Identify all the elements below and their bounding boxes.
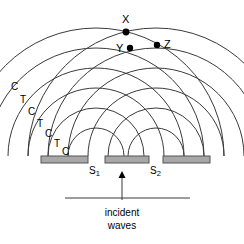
wavefront-arc-s2-1 [128,128,184,156]
wavefront-arc-s2-2 [108,108,204,156]
barrier-left [41,156,88,163]
point-dot-z [154,42,160,48]
wavefront-arc-s2-5 [48,48,244,156]
point-dot-x [123,29,130,36]
slit-label-s2-text: S [150,165,157,176]
slit-label-s2: S2 [150,166,161,176]
point-label-y: Y [116,43,123,54]
slit-label-s1: S1 [89,166,100,176]
incident-wave-arrow-group [65,171,190,200]
wave-label-crest-4: C [62,147,69,157]
slit-label-s1-text: S [89,165,96,176]
wave-label-crest-2: C [28,107,35,117]
incident-waves-line2: waves [92,220,152,233]
wave-label-crest-3: C [45,129,52,139]
incident-arrow-head [119,171,126,178]
point-label-z: Z [164,39,171,50]
point-label-x: X [122,14,129,25]
point-dot-y [127,45,133,51]
barrier-right [163,156,210,163]
slit-label-s2-subscript: 2 [157,169,161,178]
barrier-blocks-group [41,156,210,163]
wave-label-trough-2: T [37,119,43,129]
wave-label-trough-1: T [20,95,26,105]
wave-label-crest-1: C [11,82,18,92]
slit-label-s1-subscript: 1 [96,169,100,178]
wavefront-arc-s1-1 [68,128,124,156]
wave-label-trough-3: T [54,139,60,149]
wavefront-arc-s1-5 [0,48,204,156]
wavefront-arc-s2-4 [68,68,244,156]
incident-waves-line1: incident [92,207,152,220]
barrier-middle [105,156,149,163]
incident-waves-caption: incident waves [92,207,152,232]
wave-interference-diagram: X Y Z C T C T C T C S1 S2 incident waves [0,0,244,244]
